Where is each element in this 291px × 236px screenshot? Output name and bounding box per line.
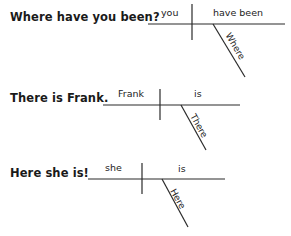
sentence-2: There is Frank. xyxy=(10,91,108,105)
sentence-3: Here she is! xyxy=(10,166,89,180)
sentence-1: Where have you been? xyxy=(10,10,160,24)
diagram-lines xyxy=(0,0,291,236)
predicate-1: have been xyxy=(213,7,263,18)
predicate-3: is xyxy=(178,163,186,174)
predicate-2: is xyxy=(194,88,202,99)
subject-1: you xyxy=(161,7,178,18)
subject-2: Frank xyxy=(118,88,144,99)
subject-3: she xyxy=(105,162,122,173)
